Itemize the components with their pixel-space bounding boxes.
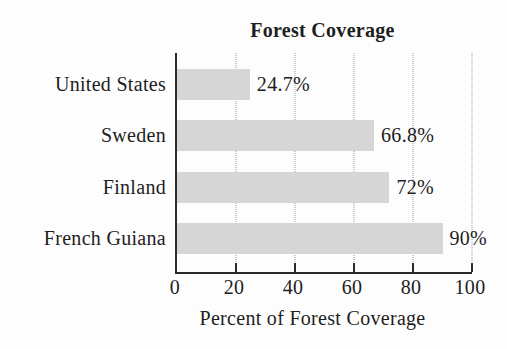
value-label-finland: 72% bbox=[396, 176, 434, 199]
bar-row-united-states: 24.7% bbox=[177, 69, 472, 100]
value-label-united-states: 24.7% bbox=[257, 73, 310, 96]
bar-united-states bbox=[177, 69, 250, 100]
bar-french-guiana bbox=[177, 223, 443, 254]
xtick-label-80: 80 bbox=[401, 276, 422, 299]
value-label-sweden: 66.8% bbox=[381, 124, 434, 147]
tick-mark-100 bbox=[471, 263, 473, 272]
category-label-united-states: United States bbox=[0, 69, 166, 100]
value-label-french-guiana: 90% bbox=[450, 227, 488, 250]
x-axis-title: Percent of Forest Coverage bbox=[165, 307, 460, 330]
xtick-label-20: 20 bbox=[224, 276, 245, 299]
tick-mark-80 bbox=[412, 263, 414, 272]
xtick-label-0: 0 bbox=[170, 276, 180, 299]
x-axis-tick-labels: 0 20 40 60 80 100 bbox=[175, 276, 470, 300]
forest-coverage-bar-chart: Forest Coverage United States Sweden Fin… bbox=[0, 0, 507, 349]
category-label-finland: Finland bbox=[0, 172, 166, 203]
bar-row-sweden: 66.8% bbox=[177, 120, 472, 151]
xtick-label-100: 100 bbox=[455, 276, 486, 299]
bar-sweden bbox=[177, 120, 374, 151]
category-label-french-guiana: French Guiana bbox=[0, 223, 166, 254]
bar-row-finland: 72% bbox=[177, 172, 472, 203]
tick-mark-20 bbox=[235, 263, 237, 272]
bar-finland bbox=[177, 172, 389, 203]
tick-mark-40 bbox=[294, 263, 296, 272]
tick-mark-60 bbox=[353, 263, 355, 272]
plot-area: 24.7% 66.8% 72% 90% bbox=[175, 53, 472, 274]
category-label-sweden: Sweden bbox=[0, 120, 166, 151]
xtick-label-40: 40 bbox=[283, 276, 304, 299]
bar-row-french-guiana: 90% bbox=[177, 223, 472, 254]
xtick-label-60: 60 bbox=[342, 276, 363, 299]
chart-title: Forest Coverage bbox=[175, 19, 470, 42]
